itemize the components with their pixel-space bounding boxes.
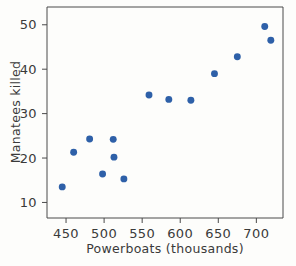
data-point: [120, 175, 127, 182]
x-tick-label: 550: [129, 226, 155, 241]
data-point: [111, 154, 118, 161]
x-tick-label: 700: [243, 226, 269, 241]
y-tick-label: 10: [20, 195, 37, 210]
data-point: [187, 97, 194, 104]
x-axis-label: Powerboats (thousands): [86, 241, 244, 256]
x-tick-label: 650: [205, 226, 231, 241]
data-point: [234, 53, 241, 60]
data-point: [86, 135, 93, 142]
data-point: [99, 171, 106, 178]
x-tick-label: 450: [53, 226, 79, 241]
data-point: [261, 23, 268, 30]
data-point: [146, 92, 153, 99]
x-tick-label: 600: [167, 226, 193, 241]
y-tick-label: 50: [20, 17, 37, 32]
x-tick-label: 500: [91, 226, 117, 241]
chart-canvas: 450500550600650700 1020304050 Powerboats…: [0, 0, 296, 266]
data-point: [70, 149, 77, 156]
data-point: [165, 96, 172, 103]
scatter-plot-figure: 450500550600650700 1020304050 Powerboats…: [0, 0, 296, 266]
data-point: [110, 136, 117, 143]
data-point: [211, 70, 218, 77]
data-point: [267, 37, 274, 44]
y-axis-label: Manatees killed: [8, 61, 23, 164]
data-point: [59, 183, 66, 190]
